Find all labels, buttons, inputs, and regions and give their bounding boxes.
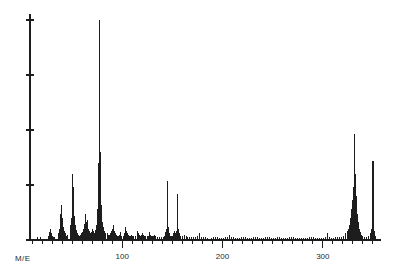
x-axis-tick-label: 300 [316,252,329,261]
peaks-layer [37,20,376,240]
spectrum-svg [0,0,410,277]
axes-layer [26,14,381,248]
x-axis-tick-label: 100 [116,252,129,261]
x-axis-unit-label: M/E [15,254,30,263]
x-axis-tick-label: 200 [216,252,229,261]
mass-spectrum-chart [0,0,410,277]
